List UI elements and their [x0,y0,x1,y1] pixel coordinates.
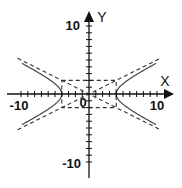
x-tick-label-neg: -10 [10,98,29,113]
x-tick-label-pos: 10 [150,98,164,113]
origin-label: 0 [79,95,86,110]
axes [7,11,174,178]
hyperbola-diagram: X Y -10 10 10 -10 0 [0,0,182,188]
y-tick-label-pos: 10 [66,18,80,33]
y-tick-label-neg: -10 [62,156,81,171]
y-axis-arrow-icon [84,11,94,22]
x-axis-arrow-icon [164,89,174,99]
y-axis-label: Y [97,9,107,25]
x-axis-label: X [160,73,170,89]
